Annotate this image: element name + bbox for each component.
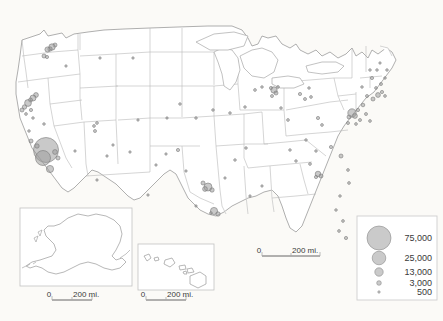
- data-bubble: [379, 62, 381, 64]
- legend-bubble: [372, 251, 386, 265]
- data-bubble: [274, 91, 278, 95]
- data-bubble: [155, 164, 157, 166]
- data-bubble: [254, 89, 257, 92]
- data-bubble: [93, 125, 96, 128]
- data-bubble: [315, 150, 318, 153]
- data-bubble: [369, 120, 372, 123]
- data-bubble: [384, 95, 387, 98]
- data-bubble: [65, 65, 67, 67]
- data-bubble: [380, 90, 383, 93]
- data-bubble: [203, 187, 208, 192]
- data-bubble: [309, 163, 312, 166]
- data-bubble: [112, 144, 114, 146]
- data-bubble: [45, 47, 50, 52]
- data-bubble: [305, 139, 308, 142]
- data-bubble: [137, 119, 139, 121]
- data-bubble: [106, 155, 108, 157]
- data-bubble: [165, 153, 167, 155]
- legend-label: 75,000: [404, 233, 432, 243]
- hawaii-scale-zero: 0: [141, 290, 146, 299]
- alaska-scale-zero: 0: [47, 290, 52, 299]
- data-bubble: [261, 185, 263, 187]
- data-bubble: [347, 115, 351, 119]
- data-bubble: [53, 150, 58, 155]
- data-bubble: [316, 116, 319, 119]
- data-bubble: [94, 130, 97, 133]
- data-bubble: [45, 55, 48, 58]
- data-bubble: [338, 230, 341, 233]
- data-bubble: [28, 130, 31, 133]
- main-scale-zero: 0: [257, 246, 262, 255]
- data-bubble: [339, 195, 342, 198]
- data-bubble: [298, 92, 301, 95]
- legend-bubble: [377, 281, 382, 286]
- data-bubble: [347, 122, 350, 125]
- data-bubble: [224, 177, 226, 179]
- data-bubble: [348, 182, 351, 185]
- data-bubble: [147, 194, 149, 196]
- data-bubble: [185, 170, 187, 172]
- main-scale-distance: 200 mi.: [292, 246, 318, 255]
- data-bubble: [366, 95, 369, 98]
- data-bubble: [271, 95, 274, 98]
- data-bubble: [201, 181, 205, 185]
- legend-label: 13,000: [404, 267, 432, 277]
- data-bubble: [386, 69, 389, 72]
- data-bubble: [370, 76, 373, 79]
- data-bubble: [129, 151, 131, 153]
- data-bubble: [132, 57, 134, 59]
- data-bubble: [195, 117, 198, 120]
- data-bubble: [384, 77, 387, 80]
- data-bubble: [319, 174, 323, 178]
- data-bubble: [277, 86, 280, 89]
- data-bubble: [308, 87, 311, 90]
- data-bubble: [35, 144, 39, 148]
- legend-label: 500: [417, 287, 432, 297]
- data-bubble: [244, 106, 247, 109]
- data-bubble: [216, 212, 220, 216]
- data-bubble: [287, 119, 290, 122]
- data-bubble: [212, 109, 215, 112]
- data-bubble: [25, 113, 28, 116]
- data-bubble: [96, 179, 98, 181]
- legend-bubble: [375, 268, 383, 276]
- data-bubble: [361, 86, 364, 89]
- data-bubble: [261, 86, 264, 89]
- data-bubble: [361, 103, 365, 107]
- proportional-symbol-map: 0 200 mi. 0 200 mi.: [0, 0, 443, 321]
- island-molokai: [179, 265, 186, 270]
- hawaii-scale-distance: 200 mi.: [167, 290, 193, 299]
- data-bubble: [289, 149, 292, 152]
- data-bubble: [310, 96, 313, 99]
- data-bubble: [36, 151, 51, 166]
- data-bubble: [29, 139, 33, 143]
- data-bubble: [245, 147, 248, 150]
- data-bubble: [96, 122, 99, 125]
- data-bubble: [280, 107, 283, 110]
- data-bubble: [295, 160, 298, 163]
- legend-label: 25,000: [404, 253, 432, 263]
- data-bubble: [329, 145, 332, 148]
- proportional-symbol-legend: 75,00025,00013,0003,000500: [357, 216, 437, 300]
- data-bubble: [376, 93, 381, 98]
- data-bubble: [29, 108, 32, 111]
- legend-bubble: [378, 291, 380, 293]
- data-bubble: [234, 159, 237, 162]
- data-bubble: [46, 165, 53, 172]
- data-bubble: [376, 69, 379, 72]
- data-bubble: [20, 108, 24, 112]
- data-bubble: [353, 114, 358, 119]
- data-bubble: [339, 154, 343, 158]
- data-bubble: [321, 124, 324, 127]
- data-bubble: [371, 97, 375, 101]
- data-bubble: [347, 169, 350, 172]
- alaska-scale-distance: 200 mi.: [73, 290, 99, 299]
- data-bubble: [166, 117, 168, 119]
- data-bubble: [179, 103, 182, 106]
- data-bubble: [56, 156, 60, 160]
- data-bubble: [359, 119, 362, 122]
- data-bubble: [375, 87, 378, 90]
- data-bubble: [369, 69, 372, 72]
- island-lanai: [183, 271, 187, 274]
- data-bubble: [249, 195, 251, 197]
